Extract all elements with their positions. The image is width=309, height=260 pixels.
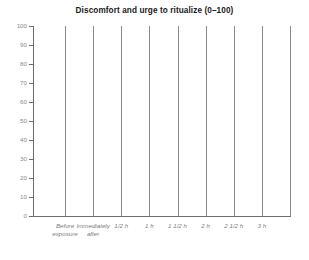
y-axis-tick: [29, 159, 33, 160]
y-axis-tick: [29, 121, 33, 122]
y-axis-tick: [29, 216, 33, 217]
x-axis-line: [33, 216, 291, 217]
y-axis-tick-label: 70: [0, 80, 27, 86]
gridline-vertical: [93, 26, 94, 216]
chart-title: Discomfort and urge to ritualize (0–100): [0, 6, 309, 16]
gridline-vertical: [178, 26, 179, 216]
y-axis-tick: [29, 102, 33, 103]
y-axis-tick: [29, 140, 33, 141]
y-axis-tick-label: 90: [0, 42, 27, 48]
gridline-vertical: [262, 26, 263, 216]
y-axis-tick-label: 30: [0, 156, 27, 162]
gridline-vertical: [121, 26, 122, 216]
y-axis-tick-label: 50: [0, 118, 27, 124]
gridline-vertical: [290, 26, 291, 216]
y-axis-tick-label: 60: [0, 99, 27, 105]
y-axis-tick: [29, 83, 33, 84]
y-axis-tick: [29, 197, 33, 198]
y-axis-tick: [29, 64, 33, 65]
plot-area: [33, 26, 290, 216]
gridline-vertical: [65, 26, 66, 216]
gridline-vertical: [234, 26, 235, 216]
y-axis-tick-label: 20: [0, 175, 27, 181]
gridline-vertical: [206, 26, 207, 216]
y-axis-tick: [29, 178, 33, 179]
y-axis-tick: [29, 26, 33, 27]
y-axis-tick-label: 80: [0, 61, 27, 67]
y-axis-tick: [29, 45, 33, 46]
x-axis-tick-label: 3 h: [232, 222, 292, 230]
y-axis-tick-label: 10: [0, 194, 27, 200]
y-axis-tick-label: 0: [0, 213, 27, 219]
chart-container: Discomfort and urge to ritualize (0–100)…: [0, 0, 309, 260]
gridline-vertical: [149, 26, 150, 216]
y-axis-tick-label: 100: [0, 23, 27, 29]
y-axis-tick-label: 40: [0, 137, 27, 143]
